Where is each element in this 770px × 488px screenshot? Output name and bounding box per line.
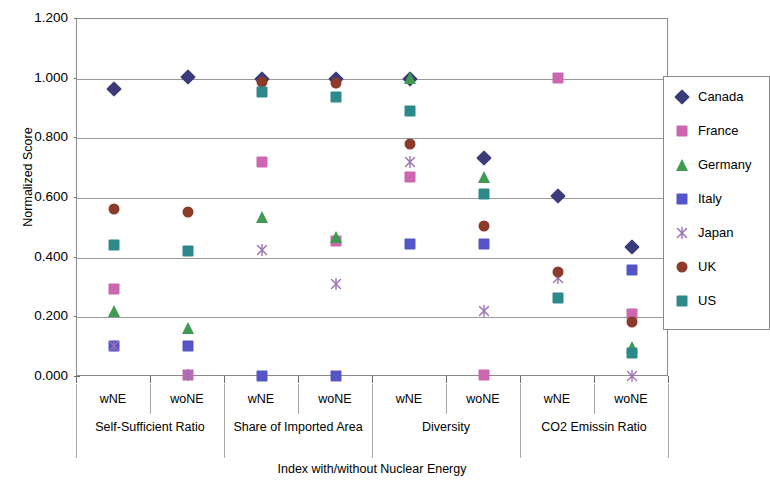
x-tick-mark: [224, 376, 225, 383]
gridline: [77, 258, 667, 259]
y-tick-label: 0.200: [6, 310, 68, 324]
data-point-uk: [109, 204, 120, 215]
legend-swatch-circle-icon: [677, 262, 688, 273]
data-point-canada: [106, 81, 122, 97]
data-point-canada: [550, 188, 566, 204]
gridline: [77, 138, 667, 139]
x-axis-separator: [446, 384, 447, 414]
data-point-canada: [180, 69, 196, 85]
data-point-us: [331, 91, 342, 102]
x-group-label: Share of Imported Area: [224, 414, 372, 458]
x-group-label: Self-Sufficient Ratio: [76, 414, 224, 458]
data-point-france: [109, 283, 120, 294]
gridline: [77, 317, 667, 318]
x-axis-title: Index with/without Nuclear Energy: [0, 462, 744, 476]
data-point-us: [405, 106, 416, 117]
data-point-uk: [183, 207, 194, 218]
y-tick-label: 0.800: [6, 131, 68, 145]
x-sub-label: wNE: [76, 384, 150, 414]
x-axis-separator: [594, 384, 595, 414]
data-point-germany: [182, 322, 194, 334]
data-point-italy: [405, 238, 416, 249]
x-axis-separator: [298, 384, 299, 414]
data-point-uk: [405, 138, 416, 149]
data-point-us: [257, 87, 268, 98]
legend-label: Italy: [698, 188, 722, 210]
legend-label: France: [698, 120, 738, 142]
legend-label: Japan: [698, 222, 733, 244]
x-axis-separator: [668, 384, 669, 458]
legend-label: US: [698, 290, 716, 312]
data-point-uk: [331, 78, 342, 89]
data-point-germany: [404, 72, 416, 84]
x-tick-mark: [520, 376, 521, 383]
data-point-canada: [476, 151, 492, 167]
legend-item-us[interactable]: US: [672, 290, 770, 312]
legend-label: UK: [698, 256, 716, 278]
legend-item-germany[interactable]: Germany: [672, 154, 770, 176]
x-tick-mark: [298, 376, 299, 383]
data-point-france: [405, 171, 416, 182]
x-axis: wNEwoNESelf-Sufficient RatiowNEwoNEShare…: [76, 376, 668, 460]
x-axis-separator: [372, 384, 373, 458]
data-point-uk: [627, 316, 638, 327]
legend-swatch-square-icon: [677, 194, 688, 205]
x-tick-mark: [372, 376, 373, 383]
x-tick-mark: [446, 376, 447, 383]
legend-swatch-diamond-icon: [674, 89, 690, 105]
x-tick-mark: [76, 376, 77, 383]
legend-item-canada[interactable]: Canada: [672, 86, 770, 108]
legend-item-italy[interactable]: Italy: [672, 188, 770, 210]
x-axis-separator: [224, 384, 225, 458]
data-point-france: [553, 72, 564, 83]
data-point-japan: [478, 304, 491, 317]
data-point-us: [479, 189, 490, 200]
chart-figure: Normalized Score 0.0000.2000.4000.6000.8…: [0, 0, 770, 488]
legend-item-uk[interactable]: UK: [672, 256, 770, 278]
data-point-germany: [108, 305, 120, 317]
legend-swatch-square-icon: [677, 296, 688, 307]
x-tick-mark: [594, 376, 595, 383]
y-tick-label: 1.200: [6, 11, 68, 25]
x-sub-label: woNE: [446, 384, 520, 414]
gridline: [77, 198, 667, 199]
data-point-germany: [330, 231, 342, 243]
x-group-label: Diversity: [372, 414, 520, 458]
x-axis-separator: [150, 384, 151, 414]
gridline: [77, 79, 667, 80]
data-point-uk: [553, 266, 564, 277]
plot-area: [76, 18, 668, 376]
data-point-japan: [404, 155, 417, 168]
data-point-italy: [627, 265, 638, 276]
data-point-japan: [256, 244, 269, 257]
data-point-italy: [479, 238, 490, 249]
legend-item-france[interactable]: France: [672, 120, 770, 142]
legend-swatch-triangle-icon: [676, 159, 688, 171]
y-tick-label: 0.600: [6, 190, 68, 204]
legend-item-japan[interactable]: Japan: [672, 222, 770, 244]
legend-swatch-star-icon: [676, 227, 689, 240]
data-point-us: [183, 245, 194, 256]
data-point-italy: [183, 340, 194, 351]
data-point-canada: [624, 239, 640, 255]
x-sub-label: woNE: [594, 384, 668, 414]
x-sub-label: woNE: [298, 384, 372, 414]
x-sub-label: woNE: [150, 384, 224, 414]
legend-swatch-square-icon: [677, 126, 688, 137]
data-point-japan: [108, 339, 121, 352]
x-sub-label: wNE: [372, 384, 446, 414]
x-sub-label: wNE: [520, 384, 594, 414]
x-sub-label: wNE: [224, 384, 298, 414]
x-tick-mark: [150, 376, 151, 383]
data-point-uk: [479, 221, 490, 232]
x-axis-separator: [520, 384, 521, 458]
data-point-uk: [257, 76, 268, 87]
x-axis-separator: [76, 384, 77, 458]
x-group-label: CO2 Emissin Ratio: [520, 414, 668, 458]
data-point-us: [109, 239, 120, 250]
data-point-france: [257, 156, 268, 167]
y-tick-label: 0.400: [6, 250, 68, 264]
data-point-us: [627, 348, 638, 359]
y-axis-ticks: 0.0000.2000.4000.6000.8001.0001.200: [6, 0, 68, 488]
data-point-japan: [330, 277, 343, 290]
